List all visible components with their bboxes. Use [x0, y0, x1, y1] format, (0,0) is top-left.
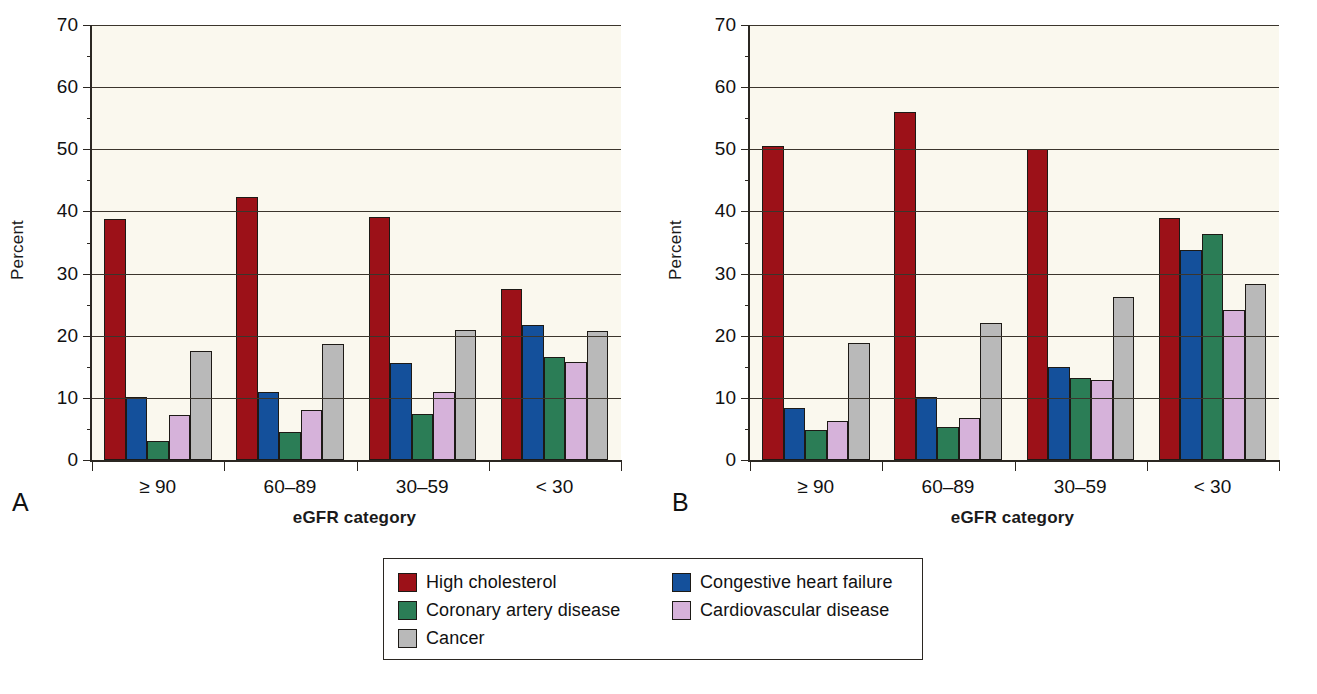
bar	[279, 432, 301, 460]
bar	[762, 146, 784, 460]
y-axis-minor-tick	[87, 118, 92, 119]
panel-b: Percent 010203040506070≥ 9060–8930–59< 3…	[658, 0, 1316, 540]
y-axis-tick-label: 50	[715, 138, 736, 160]
y-axis-minor-tick	[745, 367, 750, 368]
x-axis-tick	[621, 460, 622, 471]
bar	[805, 430, 827, 460]
y-axis-minor-tick	[87, 180, 92, 181]
y-axis-minor-tick	[745, 180, 750, 181]
bar	[959, 418, 981, 460]
bar	[522, 325, 544, 460]
y-axis-tick-label: 10	[715, 387, 736, 409]
y-axis-tick	[83, 211, 92, 212]
bar	[1113, 297, 1135, 460]
x-axis-tick	[1147, 460, 1148, 471]
x-axis-tick	[357, 460, 358, 471]
bar	[433, 392, 455, 460]
bar	[236, 197, 258, 460]
x-axis-tick-label: ≥ 90	[139, 476, 176, 498]
y-axis-tick	[741, 211, 750, 212]
gridline	[92, 25, 621, 26]
plot-area-a: 010203040506070≥ 9060–8930–59< 30	[90, 25, 621, 462]
y-axis-label-a: Percent	[8, 180, 48, 320]
y-axis-tick	[741, 25, 750, 26]
x-axis-tick-label: 60–89	[264, 476, 317, 498]
bar	[126, 397, 148, 460]
gridline	[750, 274, 1279, 275]
y-axis-minor-tick	[87, 367, 92, 368]
y-axis-tick	[83, 460, 92, 461]
bar	[894, 112, 916, 460]
gridline	[750, 87, 1279, 88]
legend-swatch	[398, 601, 417, 620]
x-axis-tick-label: < 30	[536, 476, 574, 498]
x-axis-tick	[750, 460, 751, 471]
legend-swatch	[672, 601, 691, 620]
plot-area-b: 010203040506070≥ 9060–8930–59< 30	[748, 25, 1279, 462]
bar	[147, 441, 169, 460]
bar	[412, 414, 434, 460]
x-axis-tick-label: 30–59	[396, 476, 449, 498]
y-axis-tick	[83, 149, 92, 150]
y-axis-tick-label: 0	[67, 449, 78, 471]
legend-label: Congestive heart failure	[700, 572, 893, 593]
panel-letter-b: B	[672, 488, 689, 517]
y-axis-minor-tick	[745, 429, 750, 430]
y-axis-tick-label: 20	[57, 325, 78, 347]
legend: High cholesterolCongestive heart failure…	[383, 558, 923, 660]
bar	[1091, 380, 1113, 460]
y-axis-minor-tick	[87, 429, 92, 430]
legend-grid: High cholesterolCongestive heart failure…	[398, 568, 908, 652]
legend-item: High cholesterol	[398, 572, 672, 593]
legend-label: Coronary artery disease	[426, 600, 620, 621]
y-axis-tick-label: 70	[57, 14, 78, 36]
gridline	[750, 336, 1279, 337]
y-axis-minor-tick	[745, 118, 750, 119]
bar	[1202, 234, 1224, 460]
bar	[169, 415, 191, 460]
bar	[784, 408, 806, 460]
bar	[544, 357, 566, 460]
bar	[190, 351, 212, 460]
y-axis-tick-label: 40	[57, 200, 78, 222]
gridline	[92, 87, 621, 88]
bar	[565, 362, 587, 460]
bar-group-container-b	[750, 25, 1279, 460]
x-axis-title-b: eGFR category	[748, 508, 1277, 528]
y-axis-tick-label: 20	[715, 325, 736, 347]
panel-a: Percent 010203040506070≥ 9060–8930–59< 3…	[0, 0, 658, 540]
x-axis-title-a: eGFR category	[90, 508, 619, 528]
legend-item: Coronary artery disease	[398, 600, 672, 621]
y-axis-tick	[741, 460, 750, 461]
gridline	[92, 149, 621, 150]
legend-swatch	[398, 629, 417, 648]
y-axis-tick-label: 40	[715, 200, 736, 222]
bar	[322, 344, 344, 460]
x-axis-tick	[1279, 460, 1280, 471]
bar	[104, 219, 126, 460]
legend-swatch	[672, 573, 691, 592]
y-axis-minor-tick	[87, 243, 92, 244]
y-axis-tick	[83, 25, 92, 26]
y-axis-tick-label: 60	[57, 76, 78, 98]
bar	[827, 421, 849, 460]
y-axis-tick	[741, 87, 750, 88]
legend-item: Cardiovascular disease	[672, 600, 908, 621]
gridline	[750, 25, 1279, 26]
bar	[369, 217, 391, 460]
y-axis-tick	[83, 398, 92, 399]
bar	[455, 330, 477, 461]
bar	[258, 392, 280, 460]
gridline	[92, 211, 621, 212]
bar	[1245, 284, 1267, 460]
bar	[1048, 367, 1070, 460]
bar	[1159, 218, 1181, 460]
gridline	[750, 398, 1279, 399]
legend-label: Cancer	[426, 628, 485, 649]
y-axis-tick-label: 0	[725, 449, 736, 471]
legend-label: Cardiovascular disease	[700, 600, 889, 621]
y-axis-tick	[741, 274, 750, 275]
y-axis-tick	[741, 149, 750, 150]
y-axis-tick-label: 30	[57, 263, 78, 285]
y-axis-tick-label: 30	[715, 263, 736, 285]
